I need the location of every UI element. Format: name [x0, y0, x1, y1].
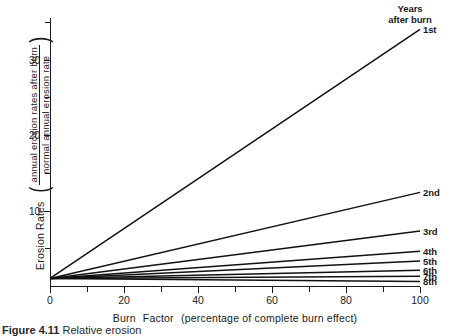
series-label-3rd: 3rd: [423, 225, 437, 236]
series-label-1st: 1st: [423, 24, 436, 35]
series-label-2nd: 2nd: [423, 187, 440, 198]
series-label-8th: 8th: [423, 276, 437, 287]
caption-label: Figure 4.11: [2, 324, 59, 336]
series-line: [50, 278, 420, 281]
legend-title: Years after burn: [371, 3, 449, 26]
caption-text: Relative erosion: [63, 324, 142, 336]
legend-title-line2: after burn: [371, 14, 449, 25]
figure-caption: Figure 4.11 Relative erosion: [2, 324, 141, 336]
series-line: [50, 29, 420, 278]
legend-title-line1: Years: [371, 3, 449, 14]
